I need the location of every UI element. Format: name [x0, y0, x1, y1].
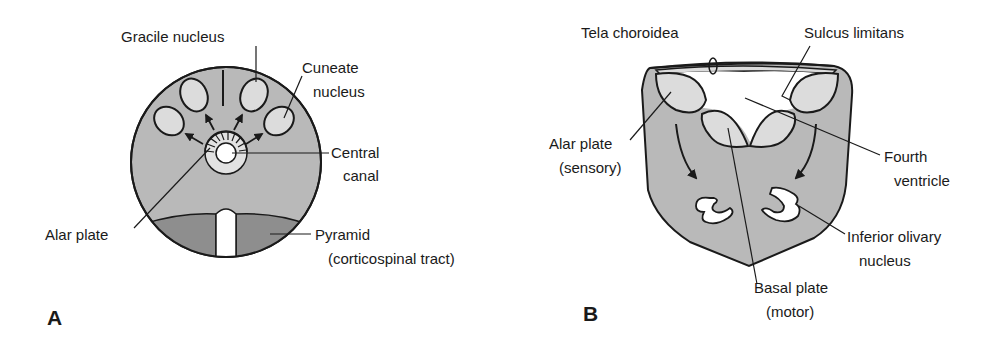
label-inferior-olivary-line2: nucleus — [859, 252, 911, 269]
label-fourth-ventricle-line2: ventricle — [894, 172, 950, 189]
panel-a-diagram — [120, 46, 330, 268]
pyramid-region — [120, 214, 216, 268]
label-basal-plate-line1: Basal plate — [754, 279, 828, 296]
label-pyramid-line2: (corticospinal tract) — [328, 250, 455, 267]
label-inferior-olivary-line1: Inferior olivary — [847, 228, 941, 245]
label-cuneate-nucleus-line2: nucleus — [313, 83, 365, 100]
label-fourth-ventricle-line1: Fourth — [884, 148, 927, 165]
label-sulcus-limitans: Sulcus limitans — [804, 24, 904, 41]
label-alar-plate-line1: Alar plate — [549, 135, 612, 152]
label-tela-choroidea: Tela choroidea — [581, 24, 679, 41]
panel-b-diagram — [630, 46, 880, 284]
anterior-median-fissure — [216, 209, 236, 268]
label-alar-plate-line2: (sensory) — [559, 159, 622, 176]
diagram-canvas — [0, 0, 1003, 353]
label-basal-plate-line2: (motor) — [766, 303, 814, 320]
label-central-canal-line2: canal — [343, 167, 379, 184]
panel-letter-b: B — [583, 302, 598, 326]
label-cuneate-nucleus-line1: Cuneate — [302, 59, 359, 76]
label-alar-plate: Alar plate — [45, 226, 108, 243]
panel-letter-a: A — [47, 306, 62, 330]
label-central-canal-line1: Central — [331, 144, 379, 161]
label-gracile-nucleus: Gracile nucleus — [121, 28, 224, 45]
label-pyramid-line1: Pyramid — [315, 226, 370, 243]
